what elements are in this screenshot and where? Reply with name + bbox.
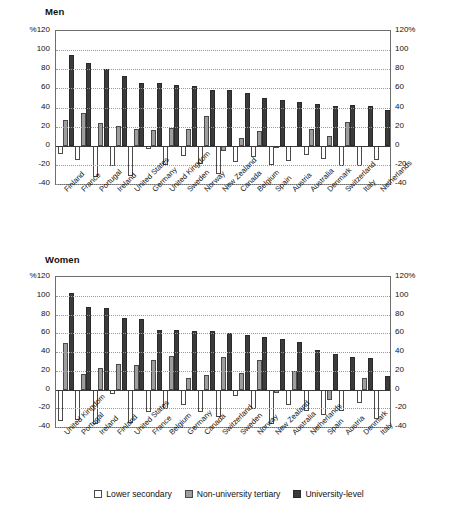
bar-nonuni (134, 365, 139, 389)
bar-nonuni (292, 371, 297, 390)
bar-lower (357, 390, 362, 403)
bar-nonuni (134, 129, 139, 145)
bar-uni (157, 83, 162, 146)
axis-tick-left: -40 (4, 179, 50, 187)
axis-tick-right: 40 (395, 347, 441, 355)
bar-uni (192, 331, 197, 389)
gridline (56, 50, 390, 51)
bar-nonuni (257, 360, 262, 390)
legend-label: University-level (305, 489, 363, 499)
axis-tick-right: 0 (395, 141, 441, 149)
axis-tick-left: -20 (4, 160, 50, 168)
bar-nonuni (221, 357, 226, 390)
bar-uni (139, 83, 144, 146)
axis-tick-right: 80 (395, 64, 441, 72)
bar-nonuni (81, 113, 86, 146)
bar-nonuni (239, 138, 244, 146)
bar-uni (86, 307, 91, 390)
bar-lower (58, 146, 63, 155)
plot-area-men (55, 30, 391, 185)
bar-nonuni (362, 378, 367, 389)
bar-uni (227, 90, 232, 145)
axis-tick-left: 60 (4, 83, 50, 91)
axis-tick-right: 40 (395, 103, 441, 111)
bar-nonuni (345, 122, 350, 146)
gridline (56, 315, 390, 316)
axis-tick-left: 40 (4, 347, 50, 355)
axis-tick-left: 40 (4, 103, 50, 111)
axis-tick-left: -20 (4, 403, 50, 411)
bar-lower (58, 390, 63, 422)
axis-tick-left: %120 (4, 272, 50, 280)
legend-swatch-icon (185, 490, 193, 498)
legend-label: Lower secondary (106, 489, 171, 499)
bar-lower (181, 146, 186, 157)
bar-nonuni (63, 120, 68, 146)
bar-uni (157, 330, 162, 390)
gridline (56, 165, 390, 166)
axis-tick-right: 100 (395, 291, 441, 299)
gridline (56, 296, 390, 297)
bar-uni (210, 90, 215, 145)
legend-swatch-icon (293, 490, 301, 498)
bar-uni (69, 293, 74, 390)
category-labels-men: FinlandFrancePortugalIrelandUnited State… (55, 186, 391, 246)
gridline (56, 88, 390, 89)
axis-tick-left: 0 (4, 141, 50, 149)
bar-uni (192, 86, 197, 146)
axis-tick-right: 120% (395, 272, 441, 280)
gridline (56, 352, 390, 353)
panel-women: Women %120120%100100808060604040202000-2… (0, 248, 458, 485)
bar-uni (280, 339, 285, 390)
bar-nonuni (116, 126, 121, 146)
bar-uni (262, 98, 267, 146)
bar-uni (210, 331, 215, 389)
bar-lower (269, 146, 274, 165)
bar-uni (174, 85, 179, 146)
axis-tick-left: 80 (4, 310, 50, 318)
axis-tick-right: -40 (395, 422, 441, 430)
bar-nonuni (151, 360, 156, 389)
bar-uni (385, 110, 390, 145)
axis-tick-left: -40 (4, 422, 50, 430)
bar-lower (75, 146, 80, 160)
gridline (56, 108, 390, 109)
bar-lower (339, 146, 344, 166)
gridline (56, 127, 390, 128)
bar-nonuni (116, 364, 121, 389)
axis-tick-left: 100 (4, 291, 50, 299)
bar-lower (181, 390, 186, 406)
gridline (56, 371, 390, 372)
legend-swatch-icon (94, 490, 102, 498)
bar-nonuni (186, 129, 191, 145)
bar-uni (139, 319, 144, 389)
bar-uni (368, 358, 373, 390)
zero-line (56, 390, 390, 391)
bar-lower (286, 146, 291, 161)
axis-tick-right: 120% (395, 26, 441, 34)
bar-lower (374, 146, 379, 160)
bar-lower (286, 390, 291, 406)
chart-page: Men %120120%100100808060604040202000-20-… (0, 0, 458, 517)
bar-uni (385, 376, 390, 389)
bar-uni (122, 318, 127, 389)
axis-tick-right: 20 (395, 366, 441, 374)
bar-lower (321, 146, 326, 159)
axis-tick-left: 60 (4, 328, 50, 336)
bar-nonuni (63, 343, 68, 390)
bar-nonuni (204, 375, 209, 389)
gridline (56, 69, 390, 70)
bar-nonuni (239, 373, 244, 390)
axis-tick-right: 20 (395, 122, 441, 130)
bar-nonuni (309, 129, 314, 145)
zero-line (56, 146, 390, 147)
bar-uni (86, 63, 91, 146)
axis-tick-left: 0 (4, 385, 50, 393)
bar-uni (227, 333, 232, 389)
bar-uni (174, 330, 179, 389)
bar-uni (315, 104, 320, 146)
bar-uni (350, 357, 355, 390)
bar-uni (245, 335, 250, 389)
axis-tick-right: -40 (395, 179, 441, 187)
panel-title-men: Men (45, 6, 64, 17)
